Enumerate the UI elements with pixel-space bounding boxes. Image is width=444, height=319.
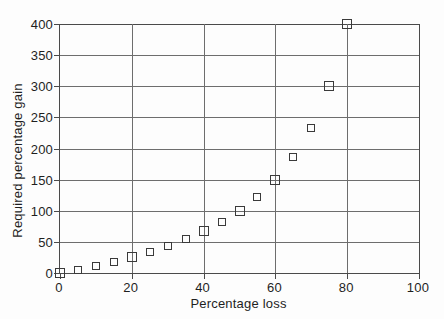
y-axis-tick-labels: 050100150200250300350400	[22, 24, 53, 273]
x-axis-tick-label: 20	[123, 281, 138, 294]
data-point-marker	[182, 235, 190, 243]
data-point-marker	[92, 262, 100, 270]
y-axis-tick-label: 50	[38, 235, 53, 248]
y-axis-tick-label: 0	[46, 267, 53, 280]
plot-area	[59, 24, 419, 274]
x-axis-tick-label: 80	[339, 281, 354, 294]
data-point-marker	[110, 258, 118, 266]
data-point-marker	[342, 19, 352, 29]
y-axis-tick	[54, 55, 60, 56]
data-point-marker	[218, 218, 226, 226]
gridline-horizontal	[60, 24, 419, 25]
data-point-marker	[74, 266, 82, 274]
scatter-chart-figure: Required percentage gain 050100150200250…	[0, 0, 444, 319]
y-axis-tick	[54, 86, 60, 87]
y-axis-tick-label: 150	[31, 173, 53, 186]
data-point-marker	[199, 226, 209, 236]
gridline-horizontal	[60, 149, 419, 150]
data-point-marker	[324, 81, 334, 91]
data-point-marker	[307, 124, 315, 132]
data-point-marker	[146, 248, 154, 256]
x-axis-tick-label: 60	[267, 281, 282, 294]
gridline-horizontal	[60, 86, 419, 87]
x-axis-tick-label: 100	[407, 281, 429, 294]
gridline-horizontal	[60, 242, 419, 243]
y-axis-tick-label: 350	[31, 49, 53, 62]
y-axis-tick	[54, 242, 60, 243]
x-axis-tick	[347, 273, 348, 279]
data-point-marker	[55, 268, 65, 278]
y-axis-tick	[54, 180, 60, 181]
y-axis-tick	[54, 117, 60, 118]
gridline-horizontal	[60, 55, 419, 56]
x-axis-tick	[132, 273, 133, 279]
data-point-marker	[164, 242, 172, 250]
gridline-vertical	[347, 24, 348, 273]
plot-inner	[60, 24, 419, 273]
y-axis-tick	[54, 149, 60, 150]
y-axis-tick-label: 300	[31, 80, 53, 93]
gridline-vertical	[419, 24, 420, 273]
y-axis-tick-label: 200	[31, 142, 53, 155]
data-point-marker	[270, 175, 280, 185]
y-axis-tick	[54, 24, 60, 25]
y-axis-tick-label: 400	[31, 18, 53, 31]
x-axis-tick	[275, 273, 276, 279]
gridline-vertical	[132, 24, 133, 273]
gridline-horizontal	[60, 117, 419, 118]
gridline-vertical	[275, 24, 276, 273]
x-axis-tick	[419, 273, 420, 279]
data-point-marker	[235, 206, 245, 216]
data-point-marker	[289, 153, 297, 161]
data-point-marker	[127, 252, 137, 262]
data-point-marker	[253, 193, 261, 201]
x-axis-tick-label: 40	[195, 281, 210, 294]
y-axis-tick-label: 100	[31, 204, 53, 217]
y-axis-tick	[54, 211, 60, 212]
y-axis-tick-label: 250	[31, 111, 53, 124]
x-axis-title: Percentage loss	[59, 296, 418, 311]
x-axis-tick	[204, 273, 205, 279]
gridline-horizontal	[60, 180, 419, 181]
x-axis-tick-label: 0	[55, 281, 62, 294]
